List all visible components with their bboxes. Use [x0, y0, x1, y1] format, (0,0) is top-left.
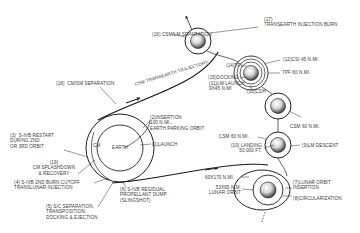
cm-label: CM	[93, 143, 100, 148]
csm-60-upper-label: CSM 60 N.MI.	[290, 124, 320, 129]
event-7-label: (7)LUNAR ORBIT INSERTION	[293, 180, 331, 191]
tei-departure-arrow	[186, 16, 192, 30]
ellipse-orbit-label: 60x170 N.MI.	[205, 175, 234, 180]
leader-12	[264, 60, 280, 64]
event-10-label: (10) LANDING 50,000 FT.	[220, 143, 262, 154]
event-5-label: (5) S/C SEPARATION, TRANSPOSITION, DOCKI…	[46, 204, 98, 220]
leader-3	[64, 150, 88, 157]
event-13-label: (13)CDH	[247, 89, 266, 94]
earth-label: EARTH	[112, 145, 128, 150]
event-8-label: (8)CIRCULARIZATION	[293, 196, 342, 201]
leader-csm-upper	[289, 111, 301, 117]
event-2-label: (2)INSERTION 100 N.MI., EARTH PARKING OR…	[150, 115, 204, 131]
event-1-label: (1)LAUNCH	[152, 142, 177, 147]
event-17-label: (17) TRANSEARTH INJECTION BURN	[264, 17, 337, 28]
moon-landing	[265, 132, 291, 158]
leader-17	[210, 27, 258, 33]
event-12-label: (12)CSI 45 N.MI.	[283, 57, 319, 62]
moon-loi-body	[260, 182, 276, 198]
leader-4	[94, 178, 108, 183]
event-3-label: (3) S-IVB RESTART DURING 2ND OR 3RD ORBI…	[10, 133, 54, 149]
leader-csm-lower	[258, 137, 266, 139]
earth-reentry-arc	[91, 132, 110, 180]
moon-csm-body	[271, 99, 286, 114]
event-4-label: (4) S-IVB 2ND BURN CUTOFF TRANSLUNAR INJ…	[14, 180, 80, 191]
loi-dashed-tail	[262, 212, 265, 222]
event-16-label: (16) CSM/LM SEPARATION	[152, 32, 212, 37]
event-9-label: (9)LM DESCENT	[302, 143, 339, 148]
moon-rendezvous-body	[244, 66, 259, 81]
tpf-label: TPF 60 N.MI.	[282, 70, 311, 75]
event-14-label: (14)TPI	[226, 63, 242, 68]
moon-landing-body	[271, 138, 286, 153]
stage-connector-4	[278, 158, 287, 176]
csm-60-lower-label: CSM 60 N.MI.	[219, 134, 249, 139]
moon-csm	[265, 93, 291, 119]
event-11-label: (11)LM LAUNCH 9x45 N.MI	[209, 81, 245, 92]
event-19-label: (19) CM SPLASHDOWN & RECOVERY	[25, 160, 83, 176]
event-6-label: (6) S-IVB RESIDUAL PROPELLANT DUMP (SLIN…	[120, 187, 167, 203]
leader-18	[100, 87, 116, 104]
lunar-orbit-label: 53x65 N.M. LUNAR ORBIT	[200, 185, 241, 196]
leader-5	[98, 184, 112, 207]
event-18-label: (18) CM/SM SEPARATION	[56, 81, 114, 86]
leader-1	[140, 144, 151, 145]
earth-launch-arc	[124, 120, 150, 148]
leader-9	[291, 145, 300, 146]
event-15-label: (15)DOCKING	[208, 75, 239, 80]
mission-profile-diagram: EARTH CM CSM TRANSEARTH TRAJECTORY (18) …	[0, 0, 360, 233]
moon-loi	[234, 170, 290, 222]
